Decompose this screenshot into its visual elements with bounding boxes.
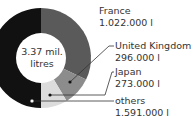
label-japan-value: 273.000 l bbox=[115, 78, 160, 90]
marker-uk bbox=[68, 80, 71, 83]
label-uk: United Kingdom 296.000 l bbox=[115, 40, 191, 64]
marker-others bbox=[30, 99, 33, 102]
center-unit: litres bbox=[16, 58, 68, 70]
label-others-value: 1.591.000 l bbox=[115, 107, 169, 116]
center-total: 3.37 mil. bbox=[16, 46, 68, 58]
label-others: others 1.591.000 l bbox=[115, 95, 169, 116]
label-uk-name: United Kingdom bbox=[115, 40, 191, 52]
label-france-name: France bbox=[99, 5, 153, 17]
label-france-value: 1.022.000 l bbox=[99, 17, 153, 29]
label-others-name: others bbox=[115, 95, 169, 107]
label-japan-name: Japan bbox=[115, 66, 160, 78]
label-uk-value: 296.000 l bbox=[115, 52, 191, 64]
label-france: France 1.022.000 l bbox=[99, 5, 153, 29]
donut-center-label: 3.37 mil. litres bbox=[16, 46, 68, 70]
label-japan: Japan 273.000 l bbox=[115, 66, 160, 90]
marker-japan bbox=[48, 93, 51, 96]
